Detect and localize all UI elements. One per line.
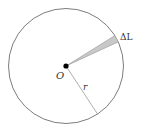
- center-point: [63, 63, 68, 68]
- radius-line: [66, 66, 98, 114]
- radius-label: r: [83, 82, 88, 92]
- arc-length-label: ΔL: [120, 32, 132, 42]
- center-label: O: [56, 70, 64, 81]
- sector-delta-l: [66, 36, 118, 66]
- circle-diagram: O r ΔL: [0, 0, 143, 131]
